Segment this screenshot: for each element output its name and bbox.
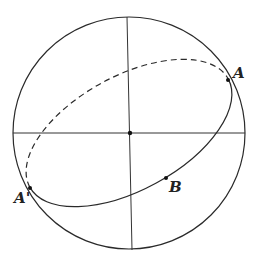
label-a: A (231, 64, 245, 82)
great-circle-front-arc (30, 79, 256, 237)
sphere-diagram: A A' B (0, 0, 258, 263)
label-a-prime: A' (12, 189, 30, 207)
point-a (226, 78, 230, 82)
label-b: B (168, 178, 182, 196)
great-circle-back-arc-dashed (3, 29, 229, 187)
point-b (164, 176, 168, 180)
center-point (128, 131, 132, 135)
